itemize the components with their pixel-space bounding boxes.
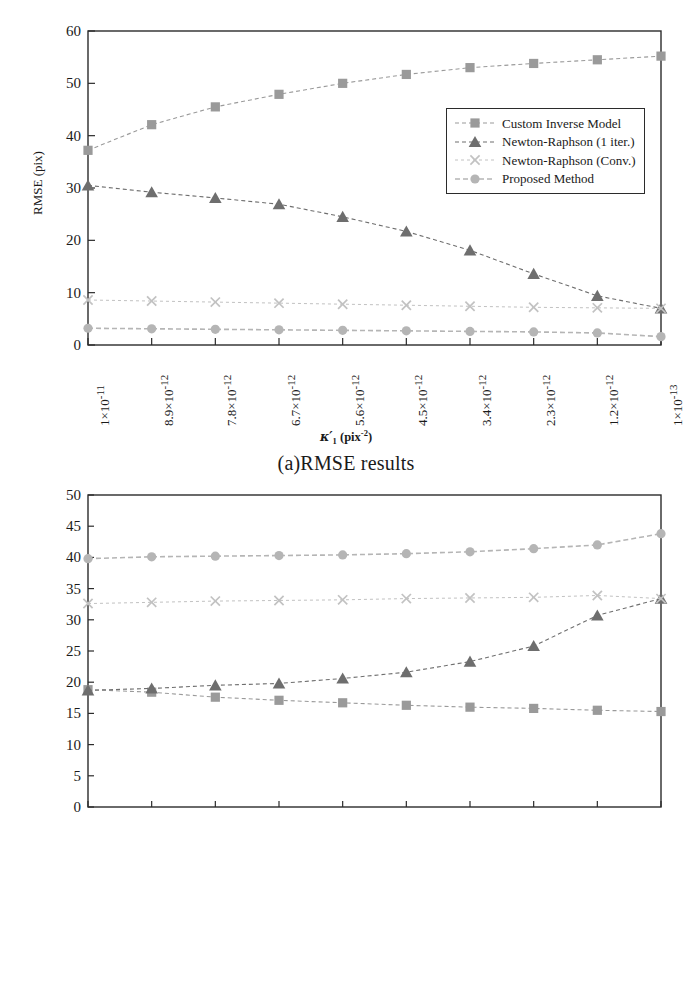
psnr-svg: 05101520253035404550 xyxy=(0,470,692,820)
x-tick-exponent: -12 xyxy=(285,375,297,390)
x-tick-label: 6.7×10-12 xyxy=(285,375,304,426)
y-tick-label: 50 xyxy=(66,487,81,503)
y-tick-label: 40 xyxy=(66,128,81,144)
kappa-symbol: κ′ xyxy=(320,429,333,444)
x-tick-exponent: -12 xyxy=(476,375,488,390)
y-tick-label: 10 xyxy=(66,737,81,753)
legend-label: Custom Inverse Model xyxy=(502,117,621,130)
y-tick-label: 45 xyxy=(66,518,81,534)
circle-marker xyxy=(454,172,496,186)
x-tick-mantissa: 4.5×10 xyxy=(415,389,430,426)
y-tick-label: 20 xyxy=(66,232,81,248)
y-tick-label: 25 xyxy=(66,643,81,659)
x-tick-exponent: -12 xyxy=(540,375,552,390)
x-tick-mantissa: 1×10 xyxy=(670,399,685,426)
x-tick-exponent: -13 xyxy=(667,384,679,399)
x-tick-mantissa: 1.2×10 xyxy=(606,389,621,426)
triangle-marker xyxy=(454,135,496,149)
y-tick-label: 60 xyxy=(66,23,81,39)
figure-container: 0102030405060 RMSE (pix) 1×10-118.9×10-1… xyxy=(0,0,692,991)
y-tick-label: 20 xyxy=(66,674,81,690)
x-tick-exponent: -12 xyxy=(221,375,233,390)
psnr-plot-area: 05101520253035404550 xyxy=(0,470,692,820)
x-tick-exponent: -12 xyxy=(603,375,615,390)
legend-label: Newton-Raphson (Conv.) xyxy=(502,154,635,167)
rmse-x-axis-title: κ′1 (pix-2) xyxy=(0,428,692,446)
legend-item: Newton-Raphson (Conv.) xyxy=(454,151,635,170)
y-tick-label: 0 xyxy=(74,337,82,353)
panel-psnr: 05101520253035404550 PSNR (dB) 1×10-118.… xyxy=(0,470,692,991)
x-tick-label: 7.8×10-12 xyxy=(221,375,240,426)
y-tick-label: 5 xyxy=(74,768,82,784)
x-tick-exponent: -12 xyxy=(349,375,361,390)
panel-rmse: 0102030405060 RMSE (pix) 1×10-118.9×10-1… xyxy=(0,0,692,495)
x-tick-label: 1×10-13 xyxy=(667,384,686,426)
x-tick-mantissa: 2.3×10 xyxy=(543,389,558,426)
x-tick-mantissa: 8.9×10 xyxy=(161,389,176,426)
y-tick-label: 35 xyxy=(66,581,81,597)
unit-exponent: -2 xyxy=(361,428,368,438)
y-tick-label: 40 xyxy=(66,549,81,565)
x-tick-mantissa: 3.4×10 xyxy=(479,389,494,426)
x-tick-label: 1×10-11 xyxy=(94,385,113,426)
legend-label: Proposed Method xyxy=(502,172,594,185)
x-tick-label: 1.2×10-12 xyxy=(603,375,622,426)
rmse-y-axis-label: RMSE (pix) xyxy=(30,151,46,215)
x-tick-mantissa: 7.8×10 xyxy=(224,389,239,426)
y-tick-label: 50 xyxy=(66,75,81,91)
unit-close: ) xyxy=(368,430,372,444)
rmse-legend: Custom Inverse ModelNewton-Raphson (1 it… xyxy=(446,108,645,194)
x-tick-exponent: -12 xyxy=(412,375,424,390)
x-tick-label: 5.6×10-12 xyxy=(349,375,368,426)
legend-item: Newton-Raphson (1 iter.) xyxy=(454,133,635,152)
x-tick-mantissa: 6.7×10 xyxy=(288,389,303,426)
y-tick-label: 30 xyxy=(66,180,81,196)
x-tick-label: 4.5×10-12 xyxy=(412,375,431,426)
x-tick-label: 8.9×10-12 xyxy=(158,375,177,426)
x-tick-label: 3.4×10-12 xyxy=(476,375,495,426)
x-tick-mantissa: 1×10 xyxy=(97,399,112,426)
unit-open: (pix xyxy=(340,430,361,444)
y-tick-label: 30 xyxy=(66,612,81,628)
y-tick-label: 0 xyxy=(74,799,82,815)
kappa-subscript: 1 xyxy=(333,436,337,446)
legend-item: Proposed Method xyxy=(454,170,635,189)
x-marker xyxy=(454,153,496,167)
x-tick-label: 2.3×10-12 xyxy=(540,375,559,426)
x-tick-exponent: -11 xyxy=(94,385,106,399)
legend-item: Custom Inverse Model xyxy=(454,114,635,133)
y-tick-label: 15 xyxy=(66,705,81,721)
x-tick-mantissa: 5.6×10 xyxy=(352,389,367,426)
x-tick-exponent: -12 xyxy=(158,375,170,390)
square-marker xyxy=(454,116,496,130)
y-tick-label: 10 xyxy=(66,285,81,301)
legend-label: Newton-Raphson (1 iter.) xyxy=(502,135,635,148)
